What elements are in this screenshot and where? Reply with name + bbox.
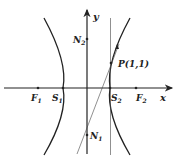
hyperbola-left-branch bbox=[44, 18, 64, 155]
point-s2 bbox=[109, 87, 112, 90]
point-f2 bbox=[135, 87, 138, 90]
label-n2: N2 bbox=[72, 35, 85, 46]
point-p bbox=[110, 62, 113, 65]
label-f2: F2 bbox=[135, 93, 147, 104]
point-s1 bbox=[62, 87, 65, 90]
label-s1: S1 bbox=[52, 93, 63, 104]
label-p: P(1,1) bbox=[117, 59, 149, 70]
hyperbola-diagram: y x N2 N1 F1 S1 S2 F2 P(1,1) bbox=[0, 0, 179, 159]
hyperbola-right-branch bbox=[109, 18, 130, 155]
label-f1: F1 bbox=[30, 93, 42, 104]
point-f1 bbox=[37, 87, 40, 90]
point-n1 bbox=[86, 134, 89, 137]
label-s2: S2 bbox=[111, 93, 122, 104]
label-n1: N1 bbox=[89, 131, 102, 142]
x-axis-label: x bbox=[159, 92, 167, 103]
point-n2 bbox=[86, 38, 89, 41]
y-axis-label: y bbox=[92, 11, 100, 22]
